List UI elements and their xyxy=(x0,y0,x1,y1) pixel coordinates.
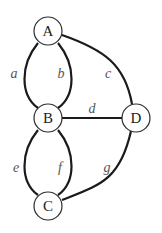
node-label-d: D xyxy=(131,110,142,126)
edge-label-a: a xyxy=(11,66,18,81)
edge-e xyxy=(25,130,39,195)
edge-a xyxy=(25,43,39,108)
node-label-c: C xyxy=(43,198,53,214)
edge-c xyxy=(62,35,132,104)
graph-diagram: a b c d e f g A B C D xyxy=(0,0,162,233)
node-b: B xyxy=(34,104,62,132)
node-label-a: A xyxy=(43,23,54,39)
node-a: A xyxy=(34,17,62,45)
node-c: C xyxy=(34,192,62,220)
node-label-b: B xyxy=(43,110,53,126)
edge-label-b: b xyxy=(58,66,65,81)
edge-label-e: e xyxy=(13,160,19,175)
edge-label-g: g xyxy=(104,160,111,175)
node-d: D xyxy=(122,104,150,132)
edge-label-d: d xyxy=(89,101,97,116)
edge-label-f: f xyxy=(58,160,64,175)
edge-label-c: c xyxy=(105,66,112,81)
